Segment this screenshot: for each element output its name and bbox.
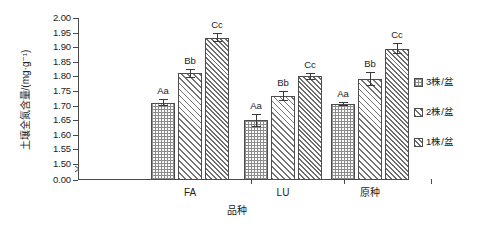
error-bar — [306, 73, 315, 80]
axis-break-icon — [74, 160, 84, 172]
error-bar — [279, 91, 288, 102]
y-tick-label: 2.00 — [53, 13, 71, 23]
x-category-label-LU: LU — [277, 188, 290, 198]
error-bar — [159, 99, 168, 106]
significance-label: Cc — [211, 20, 223, 30]
chart-legend: 3株/盆2株/盆1株/盆 — [414, 76, 494, 166]
bar-原种-2株/盆 — [358, 79, 382, 180]
y-tick-mark — [73, 33, 78, 34]
x-tick-mark — [344, 179, 345, 184]
bar-LU-3株/盆 — [244, 120, 268, 180]
y-tick-mark — [73, 62, 78, 63]
y-tick-label: 0.00 — [53, 175, 71, 185]
diagonal-forward-swatch-icon — [414, 108, 423, 117]
y-tick-label: 1.95 — [53, 28, 71, 38]
legend-item-label: 1株/盆 — [426, 137, 454, 147]
bar-FA-1株/盆 — [205, 38, 229, 180]
y-tick-label: 1.75 — [53, 86, 71, 96]
bar-FA-3株/盆 — [151, 103, 175, 180]
y-tick-mark — [73, 76, 78, 77]
y-axis-line — [78, 18, 79, 180]
x-category-label-FA: FA — [184, 188, 196, 198]
y-tick-mark — [73, 106, 78, 107]
bar-LU-2株/盆 — [271, 96, 295, 180]
y-axis-title: 土壤全氮含量/(mg·g⁻¹) — [21, 50, 31, 151]
y-tick-label: 1.60 — [53, 130, 71, 140]
legend-item-3株/盆: 3株/盆 — [414, 76, 494, 88]
significance-label: Bb — [364, 59, 376, 69]
y-tick-label: 1.80 — [53, 72, 71, 82]
significance-label: Aa — [250, 101, 262, 111]
significance-label: Cc — [304, 60, 316, 70]
y-tick-mark — [73, 135, 78, 136]
plot-area: 0.001.501.551.601.651.701.751.801.851.90… — [78, 18, 396, 180]
significance-label: Bb — [277, 78, 289, 88]
y-tick-mark — [73, 180, 78, 181]
error-bar — [393, 43, 402, 55]
significance-label: Bb — [184, 56, 196, 66]
y-tick-label: 1.70 — [53, 101, 71, 111]
error-bar — [366, 72, 375, 86]
y-tick-label: 1.85 — [53, 57, 71, 67]
y-tick-mark — [73, 47, 78, 48]
legend-item-label: 3株/盆 — [426, 77, 454, 87]
significance-label: Cc — [391, 30, 403, 40]
bar-原种-3株/盆 — [331, 104, 355, 180]
y-tick-mark — [73, 91, 78, 92]
y-tick-label: 1.65 — [53, 115, 71, 125]
significance-label: Aa — [157, 86, 169, 96]
diagonal-back-swatch-icon — [414, 138, 423, 147]
bar-原种-1株/盆 — [385, 49, 409, 180]
bar-LU-1株/盆 — [298, 76, 322, 180]
chart-figure: 0.001.501.551.601.651.701.751.801.851.90… — [0, 0, 497, 241]
y-tick-label: 1.90 — [53, 42, 71, 52]
grid-swatch-icon — [414, 78, 423, 87]
x-category-label-原种: 原种 — [360, 188, 380, 198]
error-bar — [186, 69, 195, 77]
x-tick-mark — [251, 179, 252, 184]
y-tick-mark — [73, 18, 78, 19]
error-bar — [213, 33, 222, 42]
bar-FA-2株/盆 — [178, 73, 202, 180]
x-axis-title: 品种 — [227, 206, 247, 216]
legend-item-2株/盆: 2株/盆 — [414, 106, 494, 118]
y-tick-mark — [73, 164, 78, 165]
y-tick-mark — [73, 120, 78, 121]
y-tick-label: 1.50 — [53, 159, 71, 169]
y-tick-mark — [73, 149, 78, 150]
x-tick-mark — [431, 179, 432, 184]
y-tick-label: 1.55 — [53, 145, 71, 155]
error-bar — [339, 102, 348, 106]
significance-label: Aa — [337, 89, 349, 99]
legend-item-label: 2株/盆 — [426, 107, 454, 117]
legend-item-1株/盆: 1株/盆 — [414, 136, 494, 148]
error-bar — [252, 114, 261, 127]
